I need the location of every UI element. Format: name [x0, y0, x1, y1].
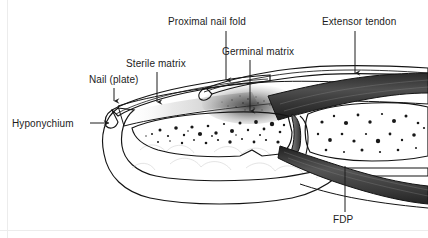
label-nail-plate: Nail (plate): [89, 74, 139, 85]
label-extensor-tendon: Extensor tendon: [322, 16, 396, 27]
label-proximal-nail-fold: Proximal nail fold: [168, 16, 246, 27]
anatomy-illustration: Proximal nail fold Extensor tendon Germi…: [0, 0, 428, 238]
nail-anatomy-figure: Proximal nail fold Extensor tendon Germi…: [0, 0, 428, 238]
label-sterile-matrix: Sterile matrix: [126, 58, 186, 69]
label-germinal-matrix: Germinal matrix: [222, 46, 294, 57]
label-hyponychium: Hyponychium: [12, 118, 74, 129]
label-fdp: FDP: [333, 214, 354, 225]
